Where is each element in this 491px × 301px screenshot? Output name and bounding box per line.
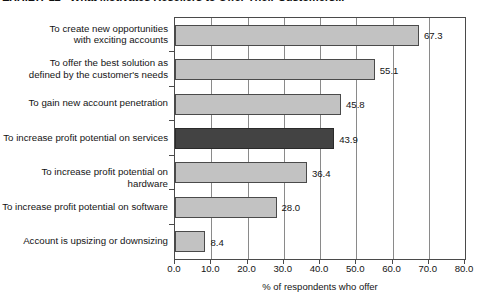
bar[interactable] [175,94,341,115]
bar-value-label: 55.1 [375,64,399,75]
plot-area: 67.355.145.843.936.428.08.4 [174,17,466,260]
exhibit-number: EXHIBIT 12 [2,0,61,3]
bar-value-label: 28.0 [277,202,301,213]
bar[interactable] [175,25,419,46]
category-label-line: Account is upsizing or downsizing [0,235,168,246]
x-axis-title: % of respondents who offer [174,281,466,292]
category-label-line: To gain new account penetration [0,97,168,108]
bar-value-label: 36.4 [307,167,331,178]
bar-row: 67.3 [175,25,465,46]
bar[interactable] [175,59,375,80]
bar-row: 8.4 [175,231,465,252]
bar-value-label: 8.4 [205,236,223,247]
x-axis-tick-labels: 0.010.020.030.040.050.060.070.080.0 [0,263,491,277]
category-label: To offer the best solution asdefined by … [0,57,168,80]
x-axis-tick-label: 80.0 [441,263,487,274]
category-label: To increase profit potential on software [0,201,168,212]
bar[interactable] [175,162,307,183]
bar-row: 28.0 [175,197,465,218]
category-label-line: defined by the customer's needs [0,69,168,80]
bar-row: 43.9 [175,128,465,149]
exhibit-title-text: What Motivates Resellers to Offer Their … [70,0,345,3]
exhibit-title: EXHIBIT 12What Motivates Resellers to Of… [2,0,489,7]
category-label: To gain new account penetration [0,97,168,108]
bar-series: 67.355.145.843.936.428.08.4 [175,18,465,259]
bar-value-label: 67.3 [419,30,443,41]
category-label-line: To create new opportunities [0,23,168,34]
category-label: To create new opportunitieswith exciting… [0,23,168,46]
bar-value-label: 43.9 [334,133,358,144]
category-label-line: with exciting accounts [0,34,168,45]
bar[interactable] [175,197,277,218]
category-label-line: To increase profit potential on services [0,132,168,143]
category-label-line: To increase profit potential on hardware [0,166,168,189]
bar-row: 45.8 [175,94,465,115]
category-label-line: To offer the best solution as [0,57,168,68]
bar-value-label: 45.8 [341,99,365,110]
category-label-line: To increase profit potential on software [0,201,168,212]
category-label: Account is upsizing or downsizing [0,235,168,246]
bar-row: 36.4 [175,162,465,183]
bar-row: 55.1 [175,59,465,80]
category-label: To increase profit potential on hardware [0,166,168,189]
bar[interactable] [175,128,334,149]
bar[interactable] [175,231,205,252]
category-label: To increase profit potential on services [0,132,168,143]
